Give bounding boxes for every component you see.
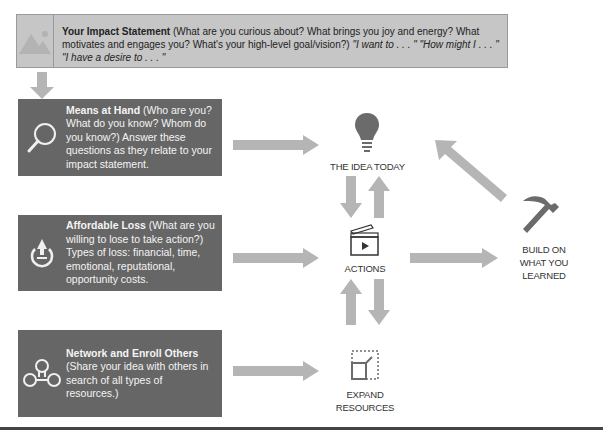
build-label-line3: LEARNED bbox=[505, 269, 583, 282]
expand-label-line1: EXPAND bbox=[320, 388, 410, 401]
network-icon bbox=[22, 359, 62, 389]
impact-icon-cell bbox=[17, 15, 54, 67]
build-label-line1: BUILD ON bbox=[505, 243, 583, 256]
loss-title: Affordable Loss bbox=[66, 219, 146, 231]
impact-statement-text: Your Impact Statement (What are you curi… bbox=[54, 15, 507, 67]
arrow-actions-to-expand bbox=[368, 279, 390, 325]
bottom-divider bbox=[0, 427, 603, 430]
arrow-idea-to-actions bbox=[340, 176, 362, 218]
arrow-expand-to-actions bbox=[340, 279, 362, 325]
network-title: Network and Enroll Others bbox=[66, 347, 198, 359]
image-placeholder-icon bbox=[17, 26, 53, 56]
clapperboard-icon bbox=[349, 224, 381, 256]
arrow-network-to-expand bbox=[233, 361, 319, 381]
affordable-loss-box: Affordable Loss (What are you willing to… bbox=[18, 215, 222, 291]
actions-label: ACTIONS bbox=[330, 262, 400, 275]
arrow-means-to-idea bbox=[233, 135, 319, 155]
means-title: Means at Hand bbox=[66, 104, 140, 116]
arrow-actions-to-idea bbox=[368, 176, 390, 218]
affordable-loss-icon bbox=[27, 237, 57, 269]
hammer-icon bbox=[517, 193, 565, 237]
arrow-loss-to-actions bbox=[233, 248, 319, 268]
means-at-hand-box: Means at Hand (Who are you? What do you … bbox=[18, 99, 222, 176]
arrow-actions-to-build bbox=[410, 248, 498, 268]
impact-title: Your Impact Statement bbox=[62, 26, 170, 37]
build-label-line2: WHAT YOU bbox=[505, 256, 583, 269]
arrow-down-impact bbox=[30, 72, 54, 100]
network-box: Network and Enroll Others (Share your id… bbox=[18, 330, 222, 417]
expand-resources-icon bbox=[350, 349, 380, 381]
expand-label: EXPAND RESOURCES bbox=[320, 388, 410, 414]
arrow-build-to-idea bbox=[435, 140, 515, 210]
impact-statement-box: Your Impact Statement (What are you curi… bbox=[16, 14, 508, 68]
network-body: (Share your idea with others in search o… bbox=[66, 360, 208, 399]
lightbulb-icon bbox=[354, 112, 380, 154]
magnifier-icon bbox=[26, 121, 58, 155]
build-label: BUILD ON WHAT YOU LEARNED bbox=[505, 243, 583, 282]
idea-label: THE IDEA TODAY bbox=[320, 160, 415, 173]
expand-label-line2: RESOURCES bbox=[320, 401, 410, 414]
